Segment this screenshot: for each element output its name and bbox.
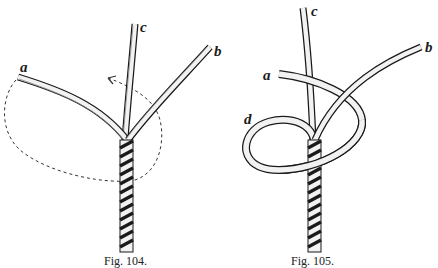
figure-104: a c b Fig. 104. (0, 0, 219, 268)
twisted-rope (308, 140, 321, 252)
figure-105-illustration (219, 0, 438, 268)
label-c: c (311, 4, 318, 19)
twisted-rope (120, 140, 133, 252)
figure-caption: Fig. 105. (291, 255, 334, 267)
figure-105: a c b d Fig. 105. (219, 0, 438, 268)
figure-104-illustration (0, 0, 219, 268)
label-c: c (140, 20, 147, 35)
label-a: a (263, 68, 271, 83)
figure-caption: Fig. 104. (104, 255, 147, 267)
label-d: d (244, 112, 252, 127)
label-a: a (20, 60, 28, 75)
label-b: b (425, 40, 433, 55)
arrow-head-icon (108, 76, 116, 84)
